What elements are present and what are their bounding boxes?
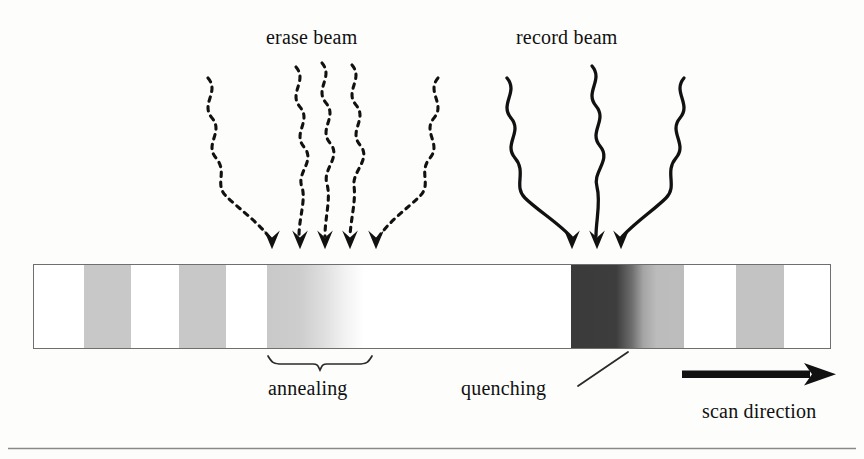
annealing-label: annealing	[268, 377, 348, 400]
annotation-layer	[0, 0, 864, 459]
scan-direction-label: scan direction	[702, 400, 816, 423]
annealing-brace	[268, 356, 372, 370]
scan-direction-arrow	[682, 363, 836, 386]
figure-phase-change-recording: erase beam record beam	[0, 0, 864, 459]
quenching-label: quenching	[461, 377, 546, 400]
quenching-leader-line	[578, 352, 628, 386]
